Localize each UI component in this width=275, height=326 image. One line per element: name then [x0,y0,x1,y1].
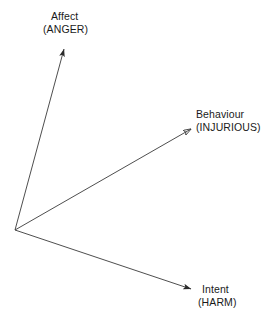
vector-diagram-svg [0,0,275,326]
intent-label-qualifier: (HARM) [198,296,237,309]
behaviour-label-qualifier: (INJURIOUS) [196,121,261,134]
affect-label-name: Affect [51,10,88,23]
affect-label-qualifier: (ANGER) [43,23,88,36]
intent-label-name: Intent [202,283,237,296]
diagram-canvas: Affect (ANGER) Behaviour (INJURIOUS) Int… [0,0,275,326]
intent-axis-label: Intent (HARM) [202,283,237,308]
behaviour-arrow [15,129,191,230]
behaviour-label-name: Behaviour [196,108,261,121]
behaviour-axis-label: Behaviour (INJURIOUS) [196,108,261,133]
affect-arrow [15,49,64,230]
intent-arrow [15,230,191,289]
affect-axis-label: Affect (ANGER) [51,10,88,35]
